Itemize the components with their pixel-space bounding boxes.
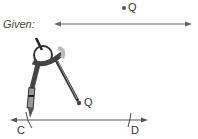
point-q-mid-label: Q: [84, 97, 93, 108]
point-d-label: D: [131, 125, 139, 136]
point-c-label: C: [17, 125, 25, 136]
point-q-top-label: Q: [128, 2, 137, 13]
given-label: Given:: [3, 19, 35, 30]
point-q-compass: [77, 101, 81, 105]
point-q-top: [122, 6, 126, 10]
compass-icon: [27, 38, 78, 118]
given-line: [54, 22, 192, 27]
line-cd: [10, 118, 148, 123]
